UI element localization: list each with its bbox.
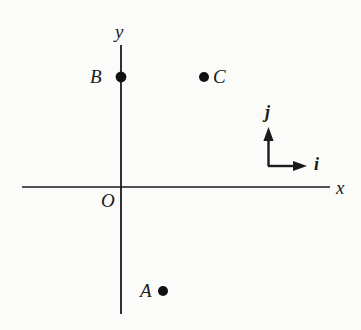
vector-i-label: i	[314, 155, 319, 173]
point-A-dot	[158, 286, 168, 296]
figure-canvas	[0, 0, 361, 330]
x-axis-label: x	[336, 178, 344, 197]
vector-j-label: j	[265, 103, 270, 121]
point-A-label: A	[140, 281, 152, 300]
point-B-dot	[116, 72, 127, 83]
point-C-label: C	[213, 67, 226, 86]
vector-j-arrowhead	[263, 127, 273, 141]
point-B-label: B	[90, 67, 102, 86]
y-axis-label: y	[115, 22, 123, 41]
point-C-dot	[199, 72, 209, 82]
coordinate-plane-figure: y x O B C A j i	[0, 0, 361, 330]
vector-i-arrowhead	[293, 161, 307, 171]
origin-label: O	[101, 191, 115, 210]
